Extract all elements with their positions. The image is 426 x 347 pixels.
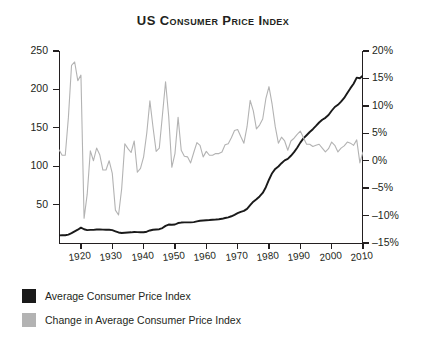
chart-title: US Consumer Price Index xyxy=(0,13,426,28)
x-tick-label: 1990 xyxy=(287,249,310,263)
chart-container: US Consumer Price Index 50100150200250 –… xyxy=(0,0,426,347)
y-tick-label-right: 20% xyxy=(372,44,393,56)
y-tick-right xyxy=(363,160,369,161)
y-tick-label-left: 250 xyxy=(30,44,48,56)
x-tick-label: 1980 xyxy=(256,249,279,263)
y-tick-right xyxy=(363,78,369,79)
x-tick-label: 1960 xyxy=(193,249,216,263)
y-tick-label-left: 200 xyxy=(30,82,48,94)
series-lines xyxy=(59,51,363,243)
legend-item-change: Change in Average Consumer Price Index xyxy=(22,312,352,327)
x-tick-label: 1920 xyxy=(68,249,91,263)
y-tick-label-right: –10% xyxy=(372,209,399,221)
x-tick-label: 2000 xyxy=(319,249,342,263)
y-tick-right xyxy=(363,105,369,106)
x-tick xyxy=(174,243,175,249)
x-tick xyxy=(80,243,81,249)
x-tick-label: 1940 xyxy=(131,249,154,263)
x-tick xyxy=(331,243,332,249)
legend-label-change: Change in Average Consumer Price Index xyxy=(45,314,241,326)
x-tick xyxy=(112,243,113,249)
y-tick-right xyxy=(363,242,369,243)
x-tick xyxy=(206,243,207,249)
y-tick-label-right: 10% xyxy=(372,99,393,111)
x-tick xyxy=(300,243,301,249)
x-tick xyxy=(268,243,269,249)
x-tick xyxy=(237,243,238,249)
legend-swatch-black xyxy=(22,289,36,303)
x-tick xyxy=(362,243,363,249)
y-tick-label-right: 15% xyxy=(372,71,393,83)
y-tick-label-left: 150 xyxy=(30,121,48,133)
y-tick-label-right: 0% xyxy=(372,154,387,166)
y-tick-right xyxy=(363,187,369,188)
plot-area xyxy=(59,51,363,243)
y-tick-right xyxy=(363,215,369,216)
legend-item-cpi: Average Consumer Price Index xyxy=(22,288,352,303)
chart-legend: Average Consumer Price Index Change in A… xyxy=(22,288,352,336)
x-tick-label: 2010 xyxy=(350,249,373,263)
y-tick-label-right: –5% xyxy=(372,181,393,193)
x-tick-label: 1970 xyxy=(225,249,248,263)
x-tick-label: 1950 xyxy=(162,249,185,263)
x-tick-label: 1930 xyxy=(99,249,122,263)
y-tick-label-right: 5% xyxy=(372,126,387,138)
legend-swatch-gray xyxy=(22,313,36,327)
y-tick-right xyxy=(363,133,369,134)
y-tick-label-left: 50 xyxy=(36,198,48,210)
y-tick-label-right: –15% xyxy=(372,236,399,248)
legend-label-cpi: Average Consumer Price Index xyxy=(45,290,191,302)
series-line-change xyxy=(59,62,363,218)
y-tick-right xyxy=(363,50,369,51)
x-tick xyxy=(143,243,144,249)
y-tick-label-left: 100 xyxy=(30,159,48,171)
